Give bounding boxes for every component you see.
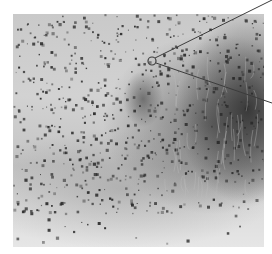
leader-line-lower xyxy=(156,63,272,103)
annotation-overlay xyxy=(0,0,272,254)
marker-circle-icon xyxy=(148,57,156,65)
leader-line-upper xyxy=(155,0,272,58)
micrograph-figure xyxy=(0,0,272,254)
